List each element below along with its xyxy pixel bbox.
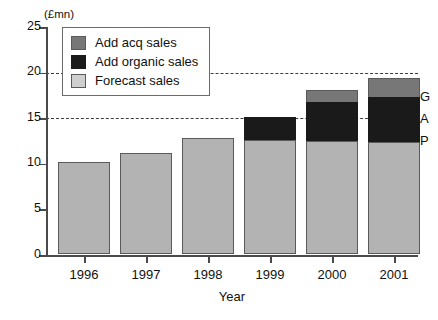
- bar-segment-organic: [244, 117, 296, 140]
- legend-item-forecast-sales[interactable]: Forecast sales: [71, 71, 198, 90]
- x-tick-label-1999: 1999: [256, 267, 285, 282]
- x-tick-mark-1998: [208, 255, 210, 263]
- x-tick-mark-1997: [146, 255, 148, 263]
- x-axis-line: [46, 255, 418, 257]
- legend-label-acq: Add acq sales: [95, 36, 177, 49]
- legend-swatch-icon-organic: [71, 55, 86, 69]
- gap-letter-a: A: [420, 108, 429, 130]
- y-tick-label-25: 25: [27, 19, 41, 33]
- bar-segment-acq: [368, 78, 420, 96]
- y-tick-label-15: 15: [27, 110, 41, 124]
- bar-1997[interactable]: [120, 153, 172, 253]
- gap-letter-p: P: [420, 130, 429, 152]
- x-tick-label-2000: 2000: [318, 267, 347, 282]
- y-tick-label-20: 20: [27, 64, 41, 78]
- x-tick-label-1996: 1996: [70, 267, 99, 282]
- bar-segment-forecast: [182, 138, 234, 254]
- bar-segment-forecast: [368, 142, 420, 253]
- chart-legend: Add acq sales Add organic sales Forecast…: [62, 27, 210, 96]
- legend-label-organic: Add organic sales: [95, 55, 198, 68]
- x-tick-label-2001: 2001: [380, 267, 409, 282]
- bar-segment-forecast: [120, 153, 172, 253]
- chart-figure: (£mn) 25 20 15 10 5 0: [0, 0, 438, 320]
- bar-segment-forecast: [244, 140, 296, 254]
- bar-segment-organic: [306, 102, 358, 141]
- bar-1999[interactable]: [244, 117, 296, 254]
- bar-1996[interactable]: [58, 162, 110, 253]
- y-axis-unit-label: (£mn): [44, 8, 74, 20]
- x-tick-mark-1999: [270, 255, 272, 263]
- x-tick-mark-2001: [394, 255, 396, 263]
- bar-1998[interactable]: [182, 138, 234, 254]
- gap-annotation: G A P: [420, 86, 430, 152]
- x-axis-title: Year: [46, 289, 418, 304]
- y-tick-label-0: 0: [34, 247, 41, 261]
- gap-letter-g: G: [420, 86, 430, 108]
- bar-segment-forecast: [58, 162, 110, 253]
- x-tick-label-1997: 1997: [132, 267, 161, 282]
- y-axis-line: [46, 27, 48, 256]
- legend-swatch-icon-forecast: [71, 74, 86, 88]
- legend-swatch-icon-acq: [71, 36, 86, 50]
- bar-segment-acq: [306, 90, 358, 102]
- y-tick-label-10: 10: [27, 155, 41, 169]
- x-tick-mark-2000: [332, 255, 334, 263]
- bar-2001[interactable]: [368, 78, 420, 253]
- bar-segment-organic: [368, 97, 420, 143]
- bar-2000[interactable]: [306, 90, 358, 253]
- legend-label-forecast: Forecast sales: [95, 74, 180, 87]
- x-tick-mark-1996: [84, 255, 86, 263]
- legend-item-add-organic-sales[interactable]: Add organic sales: [71, 52, 198, 71]
- y-tick-label-5: 5: [34, 201, 41, 215]
- x-tick-label-1998: 1998: [194, 267, 223, 282]
- gridline-15: [46, 118, 418, 119]
- legend-item-add-acq-sales[interactable]: Add acq sales: [71, 33, 198, 52]
- bar-segment-forecast: [306, 141, 358, 253]
